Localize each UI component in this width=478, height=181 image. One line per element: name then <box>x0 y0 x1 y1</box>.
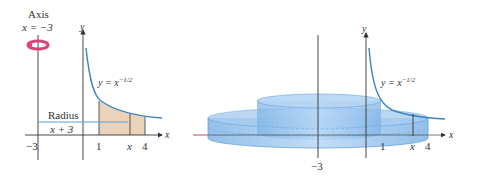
x-axis-label-3d: x <box>448 129 454 140</box>
y-axis-label: y <box>79 21 85 32</box>
x-axis-label: x <box>164 129 170 140</box>
right-panel: y x y = x−1/2 1 x 4 −3 <box>193 23 454 172</box>
tick-neg3-3d: −3 <box>311 160 323 172</box>
tick-1: 1 <box>96 140 102 152</box>
radius-label: Radius <box>48 109 79 121</box>
tick-1-3d: 1 <box>380 140 386 152</box>
tick-neg3: −3 <box>26 140 38 152</box>
tick-x: x <box>126 140 132 152</box>
curve-label-3d: y = x−1/2 <box>380 76 416 88</box>
axis-label: Axis <box>28 8 49 20</box>
left-panel: Axis x = −3 y x y = x−1/2 Radius x + 3 −… <box>21 8 170 160</box>
tick-4-3d: 4 <box>425 140 431 152</box>
shaded-region <box>99 101 145 135</box>
curve-label: y = x−1/2 <box>97 76 133 88</box>
axis-equation: x = −3 <box>21 21 53 33</box>
y-axis-label-3d: y <box>361 23 367 34</box>
radius-expression: x + 3 <box>49 123 74 135</box>
tick-x-3d: x <box>409 140 415 152</box>
diagram-canvas: Axis x = −3 y x y = x−1/2 Radius x + 3 −… <box>0 0 478 181</box>
tick-4: 4 <box>142 140 148 152</box>
